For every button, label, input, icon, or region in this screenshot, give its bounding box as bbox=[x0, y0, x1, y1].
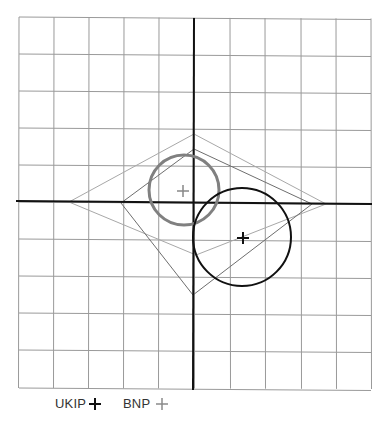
y-axis bbox=[193, 18, 194, 390]
legend-label-bnp: BNP bbox=[123, 396, 150, 411]
legend: UKIP BNP bbox=[0, 394, 387, 414]
grid-line-horizontal bbox=[19, 239, 371, 242]
grid-line-horizontal bbox=[19, 388, 371, 391]
ukip-cross-icon bbox=[237, 232, 249, 244]
grid-line-horizontal bbox=[19, 165, 371, 168]
grid-line-horizontal bbox=[19, 350, 371, 353]
grid-line-horizontal bbox=[19, 17, 371, 20]
axes bbox=[16, 18, 372, 390]
legend-label-ukip: UKIP bbox=[55, 396, 86, 411]
grid-line-horizontal bbox=[19, 276, 371, 279]
outer-light-diamond bbox=[69, 134, 326, 255]
grid-line-horizontal bbox=[19, 128, 371, 131]
party-markers bbox=[177, 185, 249, 244]
cross-icon bbox=[155, 394, 169, 414]
bnp-circle bbox=[149, 155, 219, 225]
inner-dark-quadrilateral bbox=[121, 149, 312, 295]
cross-icon bbox=[88, 394, 102, 414]
bnp-cross-icon bbox=[177, 185, 189, 197]
grid-line-horizontal bbox=[19, 313, 371, 316]
grid-line-horizontal bbox=[19, 54, 371, 57]
political-compass-chart bbox=[0, 0, 387, 426]
grid-line-horizontal bbox=[19, 91, 371, 94]
grid-line-vertical bbox=[19, 17, 20, 388]
